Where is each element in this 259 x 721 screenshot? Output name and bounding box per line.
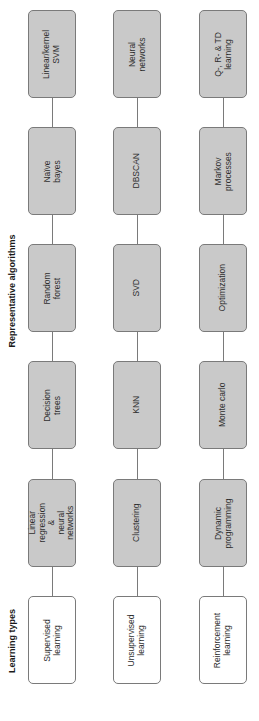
box-label: Unsupervised learning [128, 614, 147, 666]
connector [223, 215, 224, 244]
algorithm-box-dbscan: DBSCAN [113, 127, 161, 215]
algorithm-box-q-r-td-learning: Q-, R- & TD learning [199, 10, 247, 98]
box-label: Naïve bayes [43, 148, 62, 194]
connector [137, 567, 138, 596]
algorithm-box-knn: KNN [113, 361, 161, 449]
box-label: Random forest [43, 265, 62, 311]
connector [52, 98, 53, 127]
box-label: Monte carlo [218, 382, 228, 428]
algorithm-box-decision-trees: Decision trees [28, 361, 76, 449]
box-label: Clustering [132, 500, 142, 546]
algorithm-box-svd: SVD [113, 244, 161, 332]
learning-type-box-reinforcement: Reinforcement learning [199, 596, 247, 684]
algorithm-box-optimization: Optimization [199, 244, 247, 332]
connector [137, 215, 138, 244]
algorithm-box-linear-regression: Linear regression & neural networks [28, 479, 76, 567]
box-label: Markov processes [214, 148, 233, 194]
box-label: SVD [132, 265, 142, 311]
connector [223, 449, 224, 479]
box-label: Supervised learning [43, 617, 62, 663]
learning-type-box-supervised: Supervised learning [28, 596, 76, 684]
connector [52, 449, 53, 479]
algorithm-box-markov-processes: Markov processes [199, 127, 247, 215]
heading-learning-types: Learning types [7, 609, 17, 673]
algorithm-box-random-forest: Random forest [28, 244, 76, 332]
connector [137, 332, 138, 361]
connector [52, 567, 53, 596]
box-label: Optimization [218, 264, 228, 311]
box-label: Neural networks [128, 31, 147, 77]
box-label: Decision trees [43, 382, 62, 428]
algorithm-box-clustering: Clustering [113, 479, 161, 567]
box-label: Q-, R- & TD learning [214, 31, 233, 77]
connector [52, 215, 53, 244]
connector [223, 332, 224, 361]
box-label: Linear regression & neural networks [28, 500, 76, 546]
box-label: Dynamic programming [214, 498, 233, 548]
box-label: Linear/kernel SVM [43, 29, 62, 78]
algorithm-box-neural-networks: Neural networks [113, 10, 161, 98]
connector [223, 98, 224, 127]
connector [223, 567, 224, 596]
connector [52, 332, 53, 361]
algorithm-box-linear-kernel-svm: Linear/kernel SVM [28, 10, 76, 98]
connector [137, 98, 138, 127]
heading-representative-algorithms: Representative algorithms [7, 234, 17, 347]
algorithm-box-dynamic-programming: Dynamic programming [199, 479, 247, 567]
box-label: KNN [132, 382, 142, 428]
box-label: Reinforcement learning [214, 612, 233, 667]
connector [137, 449, 138, 479]
algorithm-box-naive-bayes: Naïve bayes [28, 127, 76, 215]
learning-type-box-unsupervised: Unsupervised learning [113, 596, 161, 684]
algorithm-box-monte-carlo: Monte carlo [199, 361, 247, 449]
box-label: DBSCAN [132, 148, 142, 194]
